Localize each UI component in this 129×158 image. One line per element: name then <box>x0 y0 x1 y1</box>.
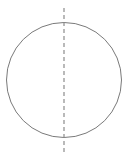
figure-canvas <box>0 0 129 158</box>
geometry-diagram-svg <box>0 0 129 158</box>
